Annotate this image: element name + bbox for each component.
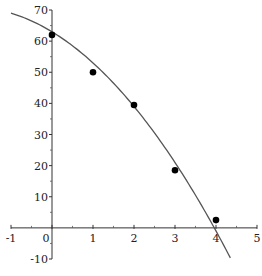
x-tick-label: 2 — [131, 232, 138, 245]
y-tick-label: 10 — [34, 191, 48, 204]
x-tick-label: -1 — [6, 232, 17, 245]
y-tick-label: 60 — [34, 35, 48, 48]
y-tick-label: 70 — [34, 4, 48, 17]
x-tick-label: 0 — [43, 232, 50, 245]
y-tick-label: 50 — [34, 66, 48, 79]
y-tick-label: 20 — [34, 160, 48, 173]
x-tick-label: 4 — [213, 232, 220, 245]
y-tick-label: 40 — [34, 97, 48, 110]
x-tick-label: 1 — [90, 232, 97, 245]
data-point — [49, 32, 56, 39]
data-points-layer — [49, 32, 220, 224]
x-tick-label: 5 — [254, 232, 261, 245]
data-point — [90, 69, 97, 76]
data-point — [213, 217, 220, 224]
data-point — [172, 167, 179, 174]
axes: -1012345-1010203040506070 — [6, 4, 261, 266]
data-point — [131, 102, 138, 109]
x-tick-label: 3 — [172, 232, 179, 245]
chart: -1012345-1010203040506070 — [0, 0, 262, 276]
y-tick-label: 30 — [34, 129, 48, 142]
y-tick-label: -10 — [30, 253, 48, 266]
